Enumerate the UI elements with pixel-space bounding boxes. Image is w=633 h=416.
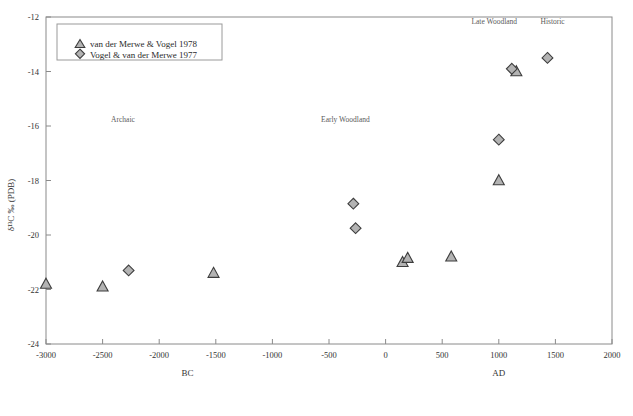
x-axis-title-ad: AD <box>492 368 505 378</box>
period-label: Historic <box>540 17 565 26</box>
x-tick-label: 1000 <box>490 350 507 360</box>
y-tick-label: -12 <box>28 12 39 22</box>
data-point-triangle[interactable] <box>97 281 108 291</box>
x-tick-label: 1500 <box>547 350 564 360</box>
x-tick-label: -1500 <box>206 350 226 360</box>
x-axis-title-bc: BC <box>181 368 193 378</box>
x-tick-label: 0 <box>383 350 387 360</box>
x-tick-label: -2500 <box>93 350 113 360</box>
data-point-diamond[interactable] <box>348 198 359 209</box>
legend-entry-1[interactable]: Vogel & van der Merwe 1977 <box>75 49 197 59</box>
y-tick-label: -24 <box>28 339 40 349</box>
x-tick-label: -2000 <box>149 350 169 360</box>
x-tick-label: -500 <box>321 350 337 360</box>
figure-container: -12-14-16-18-20-22-24 -3000-2500-2000-15… <box>0 0 633 416</box>
data-point-triangle[interactable] <box>446 251 457 261</box>
period-label: Early Woodland <box>321 115 370 124</box>
y-tick-label: -22 <box>28 285 39 295</box>
data-point-triangle[interactable] <box>402 252 413 262</box>
period-label: Archaic <box>111 115 135 124</box>
data-point-diamond[interactable] <box>493 134 504 145</box>
data-point-diamond[interactable] <box>542 52 553 63</box>
y-tick-label: -14 <box>28 67 40 77</box>
legend[interactable]: van der Merwe & Vogel 1978 Vogel & van d… <box>57 24 222 60</box>
x-tick-label: -1000 <box>262 350 282 360</box>
data-point-triangle[interactable] <box>493 175 504 185</box>
x-tick-label: -3000 <box>36 350 56 360</box>
y-tick-label: -20 <box>28 230 39 240</box>
x-axis: -3000-2500-2000-1500-1000-50005001000150… <box>36 339 620 360</box>
y-tick-label: -16 <box>28 121 39 131</box>
data-point-diamond[interactable] <box>123 265 134 276</box>
plot-frame <box>46 17 612 344</box>
data-point-triangle[interactable] <box>41 278 52 288</box>
scatter-plot[interactable]: -12-14-16-18-20-22-24 -3000-2500-2000-15… <box>0 0 633 416</box>
x-tick-label: 500 <box>436 350 449 360</box>
y-axis-title: δ¹³C ‰ (PDB) <box>6 179 16 232</box>
data-series-group[interactable] <box>41 52 553 291</box>
series-diamonds[interactable] <box>123 52 553 275</box>
y-axis: -12-14-16-18-20-22-24 <box>28 12 51 349</box>
series-triangles[interactable] <box>41 66 522 291</box>
legend-label: Vogel & van der Merwe 1977 <box>90 50 198 60</box>
legend-entry-0[interactable]: van der Merwe & Vogel 1978 <box>75 39 197 49</box>
x-tick-label: 2000 <box>604 350 621 360</box>
data-point-diamond[interactable] <box>350 223 361 234</box>
legend-label: van der Merwe & Vogel 1978 <box>90 39 197 49</box>
y-tick-label: -18 <box>28 176 39 186</box>
period-label: Late Woodland <box>471 17 517 26</box>
data-point-triangle[interactable] <box>208 267 219 277</box>
